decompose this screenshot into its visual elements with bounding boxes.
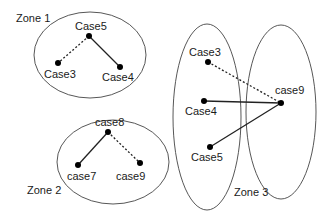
node-case7 xyxy=(75,162,81,168)
node-case4-label: Case4 xyxy=(102,71,134,83)
node-case8 xyxy=(105,129,111,135)
zone-1: Zone 1 Case5 Case3 Case4 xyxy=(16,12,146,98)
node-case8-label: case8 xyxy=(95,116,124,128)
zone-2-boundary xyxy=(57,120,169,204)
node-z3-case9-label: case9 xyxy=(275,84,304,96)
node-z3-case4 xyxy=(201,98,207,104)
node-z3-case4-label: Case4 xyxy=(185,105,217,117)
node-case5-label: Case5 xyxy=(75,20,107,32)
zone-diagram: Zone 1 Case5 Case3 Case4 Zone 2 case8 ca… xyxy=(0,0,332,212)
zone-3-right-boundary xyxy=(246,25,316,199)
node-z3-case5 xyxy=(207,144,213,150)
edge-case5-case3 xyxy=(58,36,89,63)
zone-1-label: Zone 1 xyxy=(16,12,50,24)
edge-case8-case9 xyxy=(108,132,140,163)
node-case3-label: Case3 xyxy=(44,68,76,80)
zone-3-label: Zone 3 xyxy=(234,186,268,198)
node-case7-label: case7 xyxy=(67,170,96,182)
edge-case5-case9 xyxy=(210,103,281,147)
zone-2: Zone 2 case8 case7 case9 xyxy=(27,116,169,204)
node-z3-case3 xyxy=(205,59,211,65)
node-case9 xyxy=(137,160,143,166)
node-case5 xyxy=(86,33,92,39)
node-z3-case5-label: Case5 xyxy=(191,151,223,163)
node-case3 xyxy=(55,60,61,66)
edge-case8-case7 xyxy=(78,132,108,165)
node-z3-case9 xyxy=(278,100,284,106)
edge-case4-case9 xyxy=(204,101,281,103)
node-case9-label: case9 xyxy=(116,170,145,182)
node-case4 xyxy=(117,64,123,70)
zone-3: Zone 3 Case3 Case4 Case5 case9 xyxy=(173,24,316,210)
node-z3-case3-label: Case3 xyxy=(189,46,221,58)
zone-2-label: Zone 2 xyxy=(27,184,61,196)
edge-case3-case9 xyxy=(208,62,281,103)
edge-case5-case4 xyxy=(89,36,120,67)
